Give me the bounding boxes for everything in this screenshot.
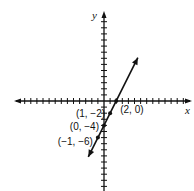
- point-label: (0, −4): [70, 121, 99, 132]
- point-label: (2, 0): [120, 104, 143, 115]
- data-point: [108, 111, 112, 115]
- data-point: [96, 136, 100, 140]
- point-label: (−1, −6): [58, 136, 93, 147]
- data-point: [114, 99, 118, 103]
- x-axis-label: x: [184, 104, 190, 116]
- data-point: [102, 123, 106, 127]
- coordinate-plane-chart: (2, 0)(1, −2)(0, −4)(−1, −6) y x: [0, 0, 194, 191]
- point-label: (1, −2): [76, 108, 105, 119]
- data-points: (2, 0)(1, −2)(0, −4)(−1, −6): [58, 99, 144, 147]
- y-axis-label: y: [91, 9, 97, 21]
- plot-area: (2, 0)(1, −2)(0, −4)(−1, −6) y x: [0, 0, 194, 191]
